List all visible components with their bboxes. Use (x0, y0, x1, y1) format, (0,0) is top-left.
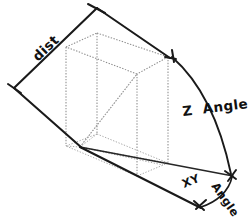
label-xy-angle-angle: Angle (209, 180, 243, 217)
box-edge-origin-connector-b (80, 134, 97, 147)
dist-dimension-group (8, 4, 105, 93)
box-edge-top-back-right (97, 33, 168, 57)
box-edge-origin-connector-a (66, 146, 80, 147)
xy-axis-line (80, 147, 233, 176)
box-edge-top-front-left (66, 47, 137, 74)
technical-diagram: dist Z Angle XY Angle (0, 0, 250, 217)
box-edge-top-left-back (66, 33, 97, 47)
box-edge-bottom-left-back (66, 134, 97, 146)
box-diagonal-lower (80, 74, 137, 147)
label-z-angle: Z Angle (181, 95, 248, 119)
label-xy-angle-xy: XY (180, 171, 202, 191)
extension-line-left (14, 88, 82, 148)
box-edge-bottom-back-right (97, 134, 168, 163)
diagram-canvas: dist Z Angle XY Angle (0, 0, 250, 217)
z-angle-arrow-head-b (172, 50, 174, 62)
box-edge-bottom-right-front (137, 163, 168, 176)
z-axis-line (97, 8, 170, 58)
box-edge-top-right-front (137, 57, 168, 74)
